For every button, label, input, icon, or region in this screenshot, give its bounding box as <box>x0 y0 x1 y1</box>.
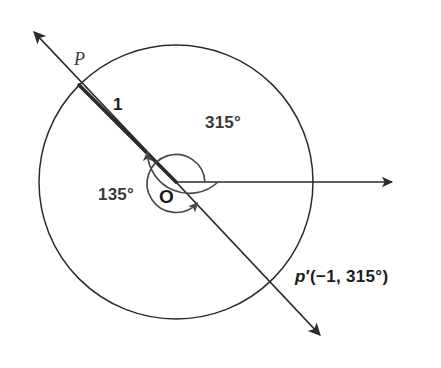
angle-135-label: 135° <box>98 186 134 203</box>
angle-arc-135 <box>147 152 218 193</box>
image-point-name: p <box>295 267 306 286</box>
segment-o-to-p <box>79 85 176 182</box>
image-point-coords: (−1, 315°) <box>310 267 388 286</box>
point-p-label: P <box>74 50 85 68</box>
angle-315-label: 315° <box>205 114 241 131</box>
terminal-ray-315 <box>176 182 320 335</box>
diagram-canvas <box>0 0 441 368</box>
image-point-label: p′(−1, 315°) <box>295 268 388 285</box>
origin-label: O <box>159 187 174 206</box>
polar-diagram: P 1 315° 135° O p′(−1, 315°) <box>0 0 441 368</box>
radius-length-label: 1 <box>113 96 122 113</box>
